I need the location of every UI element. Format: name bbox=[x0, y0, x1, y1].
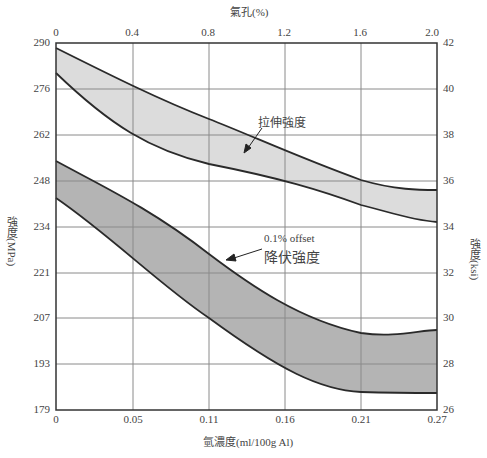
x2-tick: 0.4 bbox=[112, 26, 152, 38]
x-tick: 0.21 bbox=[341, 413, 381, 425]
left-axis-title: 強度(MPa) bbox=[4, 216, 20, 266]
right-axis-title: 強度(ksi) bbox=[467, 238, 483, 280]
x-tick: 0.05 bbox=[113, 413, 153, 425]
x2-tick: 1.6 bbox=[340, 26, 380, 38]
chart-canvas bbox=[0, 0, 487, 458]
y-tick: 193 bbox=[20, 357, 50, 369]
y-tick: 221 bbox=[20, 266, 50, 278]
x2-tick: 2.0 bbox=[412, 26, 452, 38]
x-tick: 0 bbox=[36, 413, 76, 425]
y2-tick: 40 bbox=[443, 82, 454, 94]
y2-tick: 34 bbox=[443, 220, 454, 232]
y-tick: 207 bbox=[20, 311, 50, 323]
yield-strength-label: 降伏強度 bbox=[264, 246, 320, 266]
top-axis-title: 氣孔(%) bbox=[230, 3, 269, 19]
y-tick: 276 bbox=[20, 82, 50, 94]
y-tick: 248 bbox=[20, 174, 50, 186]
offset-label: 0.1% offset bbox=[264, 232, 315, 244]
yield-arrow bbox=[226, 249, 262, 261]
y-tick: 262 bbox=[20, 128, 50, 140]
x-tick: 0.27 bbox=[417, 413, 457, 425]
bottom-axis-title: 氫濃度(ml/100g Al) bbox=[203, 433, 293, 449]
y2-tick: 38 bbox=[443, 128, 454, 140]
x2-tick: 0 bbox=[36, 26, 76, 38]
y2-tick: 28 bbox=[443, 357, 454, 369]
x2-tick: 0.8 bbox=[188, 26, 228, 38]
y2-tick: 32 bbox=[443, 266, 454, 278]
x-tick: 0.16 bbox=[265, 413, 305, 425]
y2-tick: 30 bbox=[443, 311, 454, 323]
y-tick: 234 bbox=[20, 220, 50, 232]
tensile-strength-label: 拉伸強度 bbox=[258, 113, 306, 131]
x-tick: 0.11 bbox=[189, 413, 229, 425]
x2-tick: 1.2 bbox=[264, 26, 304, 38]
y2-tick: 36 bbox=[443, 174, 454, 186]
